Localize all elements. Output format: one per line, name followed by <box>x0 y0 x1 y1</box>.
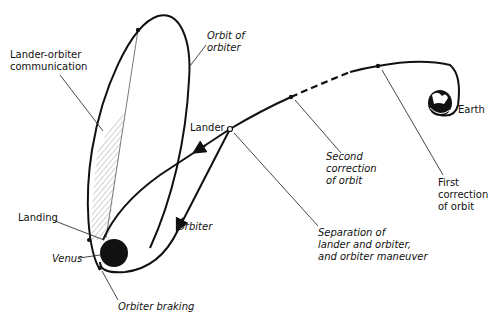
transfer-trajectory-dashed <box>291 72 350 97</box>
label-lander-orbiter-communication: Lander-orbiter communication <box>10 49 87 73</box>
leader-separation <box>234 133 318 226</box>
leader-second-correction <box>295 100 341 153</box>
orbit-top-dot <box>136 28 140 32</box>
label-venus: Venus <box>52 253 82 265</box>
landing-dot <box>87 238 91 242</box>
leader-first-correction <box>382 70 443 175</box>
trajectory-diagram <box>0 0 498 318</box>
venus-planet <box>100 239 128 267</box>
leader-orbiter-braking <box>102 271 118 300</box>
label-first-correction: First correction of orbit <box>438 177 488 213</box>
label-second-correction: Second correction of orbit <box>326 151 377 187</box>
separation-point <box>228 127 233 132</box>
transfer-trajectory-solid-1 <box>230 97 291 129</box>
label-landing: Landing <box>18 212 58 224</box>
label-earth: Earth <box>458 104 485 116</box>
second-correction-dot <box>289 95 293 99</box>
label-lander: Lander <box>190 122 225 134</box>
braking-dot <box>98 266 102 270</box>
leader-orbit-of-orbiter <box>190 45 206 66</box>
label-orbit-of-orbiter: Orbit of orbiter <box>207 30 245 54</box>
label-orbiter: Orbiter <box>177 221 212 233</box>
leader-communication <box>60 75 103 131</box>
label-separation: Separation of lander and orbiter, and or… <box>318 227 428 263</box>
earth-planet <box>428 90 452 116</box>
lander-arrow <box>198 145 206 150</box>
label-orbiter-braking: Orbiter braking <box>118 301 194 313</box>
first-correction-dot <box>376 64 380 68</box>
